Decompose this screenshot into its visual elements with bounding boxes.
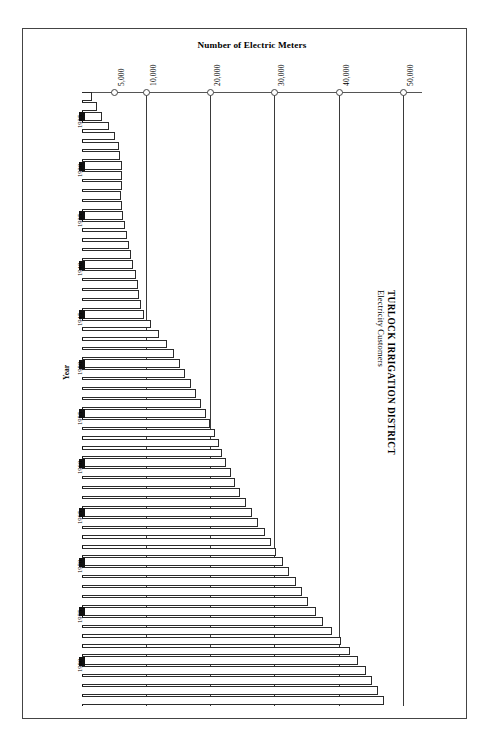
bar [82,250,131,259]
bar-row [82,270,422,280]
bar [82,92,92,101]
bar-row [82,439,422,449]
bar [82,518,258,527]
bar [82,181,122,190]
bar [82,151,120,160]
bar-row [82,280,422,290]
bar [82,191,121,200]
bar-row [82,171,422,181]
bar-row [82,132,422,142]
bar [82,201,122,210]
bar [82,458,226,467]
bar [82,696,384,705]
bar [82,221,125,230]
x-tick-label: 5,000 [117,68,126,86]
x-tick-label: 20,000 [213,64,222,86]
bar-row [82,528,422,538]
bar-row [82,250,422,260]
bar-row [82,161,422,171]
bar [82,488,240,497]
bar [82,161,122,170]
x-axis-title: Number of Electric Meters [82,40,422,50]
bar-row [82,221,422,231]
bar-row [82,142,422,152]
bar [82,676,372,685]
bar-row [82,260,422,270]
bar-row [82,379,422,389]
bar [82,468,231,477]
y-tick-label: 1960 [76,461,83,474]
y-tick-label: 1930 [76,164,83,177]
bar-row [82,656,422,666]
y-tick-label: 1925 [76,115,83,128]
bar [82,637,341,646]
bar [82,538,271,547]
x-tick-mark [111,89,118,96]
bar [82,340,167,349]
bar-row [82,518,422,528]
bar [82,310,144,319]
bar [82,330,159,339]
y-tick-label: 1980 [76,659,83,672]
bar [82,260,133,269]
bar [82,419,210,428]
bar-row [82,538,422,548]
bar-row [82,498,422,508]
x-tick-label: 40,000 [342,64,351,86]
bar [82,231,127,240]
bar [82,399,201,408]
bar [82,369,185,378]
chart-page: Number of Electric Meters Year TURLOCK I… [0,0,487,745]
bar [82,439,219,448]
bar-row [82,488,422,498]
bar [82,349,174,358]
bar-row [82,666,422,676]
y-tick-label: 1955 [76,412,83,425]
x-tick-mark [336,89,343,96]
bar-row [82,310,422,320]
bar-row [82,300,422,310]
y-tick-label: 1950 [76,362,83,375]
bar-row [82,241,422,251]
bar [82,587,302,596]
bar [82,478,235,487]
bar-row [82,577,422,587]
bar-row [82,359,422,369]
bar [82,280,138,289]
bar-row [82,330,422,340]
bar [82,449,222,458]
y-tick-label: 1970 [76,560,83,573]
bar [82,132,115,141]
bar-row [82,449,422,459]
bar [82,429,215,438]
bar [82,508,252,517]
x-tick-mark [400,89,407,96]
bar-row [82,389,422,399]
bar [82,548,276,557]
bar-row [82,508,422,518]
bar [82,211,123,220]
bar [82,567,289,576]
bar [82,320,151,329]
bar-row [82,112,422,122]
bar [82,557,283,566]
bar [82,528,265,537]
bar [82,498,246,507]
bar-row [82,122,422,132]
bar [82,270,136,279]
bar-row [82,191,422,201]
bar [82,597,308,606]
bar-row [82,597,422,607]
bar [82,577,296,586]
x-tick-label: 50,000 [406,64,415,86]
bar-row [82,369,422,379]
bar-row [82,478,422,488]
bar [82,389,196,398]
bar-row [82,399,422,409]
bar-row [82,181,422,191]
bar [82,666,366,675]
bar-row [82,340,422,350]
bar-row [82,686,422,696]
bar-row [82,548,422,558]
bar-row [82,320,422,330]
